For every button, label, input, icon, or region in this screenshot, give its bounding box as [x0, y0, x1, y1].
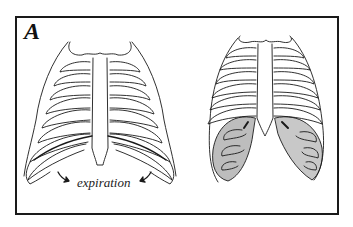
- left-ribcage: [24, 42, 176, 184]
- right-ribcage: [208, 36, 324, 182]
- caption-expiration: expiration: [77, 175, 130, 191]
- ribcage-illustration: [0, 0, 353, 227]
